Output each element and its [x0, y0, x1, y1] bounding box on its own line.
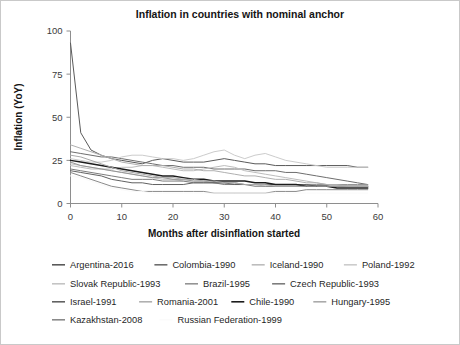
x-tick-label: 60 [373, 211, 384, 222]
page-title: Inflation in countries with nominal anch… [136, 8, 344, 20]
y-tick-label: 100 [47, 25, 63, 36]
chart-figure: Inflation in countries with nominal anch… [0, 0, 460, 345]
legend-item-label[interactable]: Chile-1990 [249, 297, 294, 307]
y-tick-label: 75 [52, 69, 63, 80]
legend-item-label[interactable]: Colombia-1990 [172, 260, 235, 270]
legend-item-label[interactable]: Hungary-1995 [331, 297, 390, 307]
legend-item-label[interactable]: Slovak Republic-1993 [70, 279, 160, 289]
legend-item-label[interactable]: Kazakhstan-2008 [70, 315, 142, 325]
legend-item-label[interactable]: Czech Republic-1993 [290, 279, 379, 289]
y-tick-label: 50 [52, 112, 63, 123]
x-tick-label: 40 [270, 211, 281, 222]
x-tick-label: 30 [219, 211, 230, 222]
legend-item-label[interactable]: Romania-2001 [157, 297, 218, 307]
y-axis-label: Inflation (YoY) [13, 83, 24, 150]
legend-item-label[interactable]: Argentina-2016 [70, 260, 134, 270]
legend-item-label[interactable]: Brazil-1995 [203, 279, 250, 289]
x-tick-label: 20 [168, 211, 179, 222]
x-tick-label: 10 [116, 211, 127, 222]
x-axis-label: Months after disinflation started [148, 228, 300, 239]
legend-item-label[interactable]: Iceland-1990 [270, 260, 324, 270]
x-tick-label: 0 [68, 211, 73, 222]
legend-item-label[interactable]: Israel-1991 [70, 297, 117, 307]
x-tick-label: 50 [321, 211, 332, 222]
legend-item-label[interactable]: Poland-1992 [362, 260, 415, 270]
y-tick-label: 0 [57, 198, 62, 209]
y-tick-label: 25 [52, 155, 63, 166]
legend-item-label[interactable]: Russian Federation-1999 [178, 315, 282, 325]
